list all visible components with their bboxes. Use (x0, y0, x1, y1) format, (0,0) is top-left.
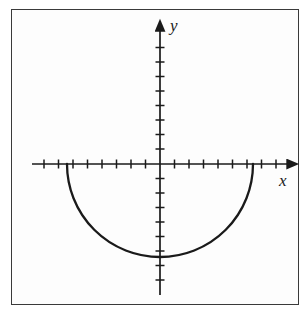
y-axis-label: y (170, 17, 178, 34)
axes-group (32, 30, 288, 295)
graph-canvas (0, 0, 308, 315)
x-axis-label: x (279, 172, 287, 189)
figure-container: y x (0, 0, 308, 315)
